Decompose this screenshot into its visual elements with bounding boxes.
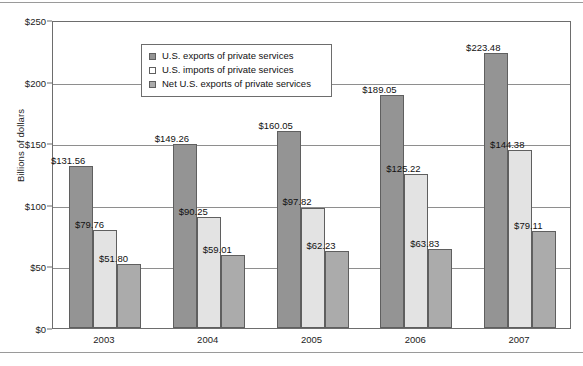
legend-label-imports: U.S. imports of private services [162,65,293,75]
bar-value-label: $59.01 [203,244,232,257]
y-tick-label: $0 [0,324,46,335]
bar-value-label: $90.25 [179,206,208,219]
bar [197,217,221,328]
x-tick-label-2006: 2006 [405,334,426,345]
x-tick-label-2003: 2003 [93,334,114,345]
page-rule-bottom [0,352,583,353]
bar-value-label: $131.56 [51,155,85,168]
bar [277,131,301,328]
bar-value-label: $160.05 [259,120,293,133]
y-tick-label: $100 [0,200,46,211]
legend-label-exports: U.S. exports of private services [162,51,293,61]
legend-item-net-exports: Net U.S. exports of private services [149,77,324,91]
bar-value-label: $97.82 [283,196,312,209]
chart-legend: U.S. exports of private services U.S. im… [141,44,332,97]
legend-label-net-exports: Net U.S. exports of private services [162,79,311,89]
x-tick-label-2004: 2004 [197,334,218,345]
bar [117,264,141,328]
bar-value-label: $149.26 [155,133,189,146]
y-tick-label: $200 [0,77,46,88]
legend-swatch-icon-imports [149,67,156,74]
bar [93,230,117,328]
bar-group-2006: $189.05$125.22$63.83 [380,22,452,328]
chart-figure: Billions of dollars $0$50$100$150$200$25… [0,0,583,366]
bar-value-label: $79.76 [75,219,104,232]
bar [173,144,197,328]
bar-value-label: $223.48 [466,42,500,55]
plot-area: $131.56$79.76$51.80$149.26$90.25$59.01$1… [52,21,571,329]
page-rule-top [0,2,583,3]
x-tick-label-2005: 2005 [301,334,322,345]
bar [325,251,349,328]
bar [484,53,508,328]
bar [380,95,404,328]
bar [532,231,556,328]
legend-item-exports: U.S. exports of private services [149,49,324,63]
bar [428,249,452,328]
y-tick-label: $150 [0,139,46,150]
bar-value-label: $79.11 [514,220,542,233]
legend-item-imports: U.S. imports of private services [149,63,324,77]
bar-value-label: $144.38 [490,139,524,152]
bar [69,166,93,328]
y-axis-tick-labels: $0$50$100$150$200$250 [0,0,52,366]
bar-value-label: $62.23 [307,240,336,253]
y-tick-label: $50 [0,262,46,273]
legend-swatch-icon-net-exports [149,81,156,88]
y-tick-label: $250 [0,16,46,27]
bar-group-2003: $131.56$79.76$51.80 [69,22,141,328]
bar-value-label: $63.83 [410,238,439,251]
x-tick-label-2007: 2007 [509,334,530,345]
bar-value-label: $189.05 [362,84,396,97]
legend-swatch-icon-exports [149,53,156,60]
bar-value-label: $125.22 [386,163,420,176]
bar-value-label: $51.80 [99,253,128,266]
bar [301,208,325,329]
bar [221,255,245,328]
bar [508,150,532,328]
bar-group-2007: $223.48$144.38$79.11 [484,22,556,328]
